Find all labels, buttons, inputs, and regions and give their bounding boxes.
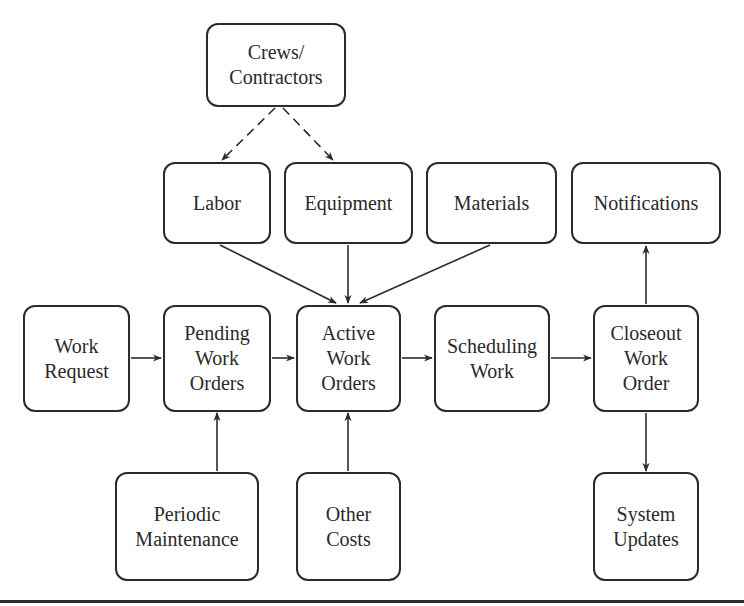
arrow-crews-to-labor: [222, 108, 275, 160]
node-materials: Materials: [426, 162, 557, 244]
node-crews: Crews/ Contractors: [206, 23, 346, 107]
node-closeout: Closeout Work Order: [593, 305, 699, 412]
node-system-updates: System Updates: [593, 472, 699, 581]
node-pending: Pending Work Orders: [163, 305, 271, 412]
node-notifications: Notifications: [571, 162, 721, 244]
node-equipment: Equipment: [284, 162, 413, 244]
arrow-labor-to-active: [220, 245, 336, 303]
arrow-crews-to-equipment: [283, 108, 333, 160]
node-scheduling: Scheduling Work: [434, 305, 550, 412]
node-labor: Labor: [163, 162, 271, 244]
arrow-materials-to-active: [360, 245, 490, 303]
node-work-request: Work Request: [23, 305, 130, 412]
work-order-flow-diagram: Crews/ ContractorsLaborEquipmentMaterial…: [0, 0, 744, 606]
bottom-rule: [0, 600, 744, 603]
node-periodic: Periodic Maintenance: [115, 472, 259, 581]
node-other-costs: Other Costs: [296, 472, 401, 581]
node-active: Active Work Orders: [296, 305, 401, 412]
